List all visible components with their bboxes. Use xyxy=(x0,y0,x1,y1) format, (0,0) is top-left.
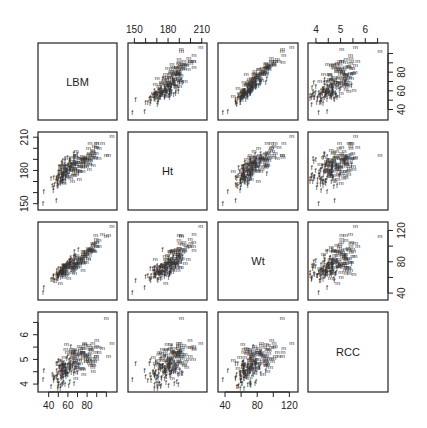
data-point: f xyxy=(143,108,145,115)
tick-label-rcc: 4 xyxy=(313,24,319,35)
variable-label: RCC xyxy=(336,346,360,358)
data-point: f xyxy=(159,89,161,96)
data-point: f xyxy=(321,163,323,170)
data-point: f xyxy=(244,361,246,368)
data-point: f xyxy=(251,85,253,92)
data-point: m xyxy=(88,140,93,146)
data-point: f xyxy=(159,365,161,372)
data-point: f xyxy=(315,83,317,90)
data-point: f xyxy=(57,173,59,180)
data-point: m xyxy=(280,59,285,65)
diagonal-panel-wt: Wt xyxy=(218,222,298,300)
data-point: m xyxy=(80,160,85,166)
data-point: m xyxy=(280,315,285,321)
data-point: f xyxy=(156,361,158,368)
scatterplot-matrix: LBMmmmmmmmmmmmmmmmmmmmmmmmmmmmmmmmmmmmmm… xyxy=(0,0,427,428)
data-point: f xyxy=(77,170,79,177)
data-point: f xyxy=(75,254,77,261)
data-point: f xyxy=(56,183,58,190)
data-point: f xyxy=(67,361,69,368)
data-point: f xyxy=(148,275,150,282)
scatter-panel-ht-vs-rcc: mmmmmmmmmmmmmmmmmmmmmmmmmmmmmmmmmmmmmmmm… xyxy=(128,312,207,392)
data-point: m xyxy=(90,340,95,346)
data-point: f xyxy=(160,375,162,382)
data-point: f xyxy=(177,371,179,378)
data-point: m xyxy=(104,152,109,158)
data-point: f xyxy=(235,174,237,181)
scatter-panel-wt-vs-ht: mmmmmmmmmmmmmmmmmmmmmmmmmmmmmmmmmmmmmmmm… xyxy=(218,132,298,210)
data-point: f xyxy=(55,197,57,204)
diagonal-panel-ht: Ht xyxy=(128,132,207,210)
tick-label-rcc: 4 xyxy=(19,381,30,387)
scatter-panel-lbm-vs-rcc: mmmmmmmmmmmmmmmmmmmmmmmmmmmmmmmmmmmmmmmm… xyxy=(38,312,117,392)
data-point: m xyxy=(353,240,358,246)
data-point: m xyxy=(71,171,76,177)
data-point: m xyxy=(104,315,109,321)
data-point: f xyxy=(177,258,179,265)
data-point: f xyxy=(66,367,68,374)
tick-label-wt: 120 xyxy=(281,400,298,411)
data-point: f xyxy=(222,200,224,207)
scatter-panel-rcc-vs-lbm: mmmmmmmmmmmmmmmmmmmmmmmmmmmmmmmmmmmmmmmm… xyxy=(308,43,388,120)
data-point: m xyxy=(346,64,351,70)
data-point: f xyxy=(43,367,45,374)
data-point: f xyxy=(62,361,64,368)
data-point: f xyxy=(241,380,243,387)
tick-label-lbm: 60 xyxy=(62,400,74,411)
data-point: m xyxy=(353,223,358,229)
data-point: m xyxy=(181,362,186,368)
data-point: m xyxy=(343,59,348,65)
data-point: f xyxy=(333,183,335,190)
data-point: f xyxy=(328,172,330,179)
data-point: m xyxy=(66,275,71,281)
data-point: m xyxy=(275,349,280,355)
scatter-panel-ht-vs-lbm: mmmmmmmmmmmmmmmmmmmmmmmmmmmmmmmmmmmmmmmm… xyxy=(128,43,207,120)
data-point: f xyxy=(149,371,151,378)
data-point: f xyxy=(148,360,150,367)
data-point: f xyxy=(332,85,334,92)
data-point: f xyxy=(67,263,69,270)
data-point: f xyxy=(57,270,59,277)
data-point: f xyxy=(227,188,229,195)
data-point: f xyxy=(313,173,315,180)
tick-label-ht: 150 xyxy=(126,24,143,35)
data-point: f xyxy=(73,370,75,377)
data-point: f xyxy=(235,197,237,204)
data-point: m xyxy=(110,340,115,346)
data-point: f xyxy=(244,90,246,97)
data-point: m xyxy=(198,223,203,229)
data-point: f xyxy=(170,261,172,268)
variable-label: LBM xyxy=(66,76,89,88)
data-point: m xyxy=(93,154,98,160)
data-point: m xyxy=(339,180,344,186)
data-point: m xyxy=(271,340,276,346)
data-point: f xyxy=(134,360,136,367)
data-point: f xyxy=(350,161,352,168)
data-point: f xyxy=(317,200,319,207)
data-point: f xyxy=(254,79,256,86)
data-point: m xyxy=(93,232,98,238)
data-point: m xyxy=(106,353,111,359)
data-point: m xyxy=(335,280,340,286)
tick-label-rcc: 5 xyxy=(338,24,344,35)
scatter-panel-wt-vs-lbm: mmmmmmmmmmmmmmmmmmmmmmmmmmmmmmmmmmmmmmmm… xyxy=(218,43,298,120)
data-point: m xyxy=(180,66,185,72)
data-point: m xyxy=(191,247,196,253)
data-point: f xyxy=(350,260,352,267)
data-point: m xyxy=(198,340,203,346)
data-point: m xyxy=(353,62,358,68)
data-point: f xyxy=(311,164,313,171)
data-point: f xyxy=(340,168,342,175)
data-point: f xyxy=(333,197,335,204)
data-point: m xyxy=(265,140,270,146)
data-point: f xyxy=(252,343,254,350)
data-point: f xyxy=(334,91,336,98)
data-point: m xyxy=(110,223,115,229)
data-point: f xyxy=(62,175,64,182)
data-point: f xyxy=(238,164,240,171)
data-point: m xyxy=(343,237,348,243)
data-point: f xyxy=(255,162,257,169)
tick-label-lbm: 80 xyxy=(396,66,407,78)
tick-label-rcc: 5 xyxy=(19,356,30,362)
data-point: f xyxy=(164,367,166,374)
